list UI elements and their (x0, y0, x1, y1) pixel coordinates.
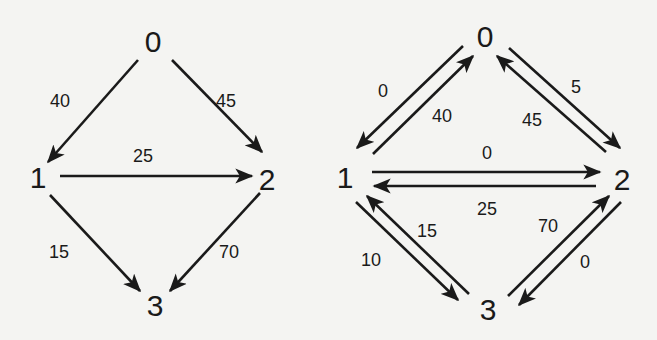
node-3: 3 (147, 289, 164, 322)
edge-arrow-2-to-3 (519, 202, 621, 305)
edge-label-2-to-1: 25 (477, 199, 497, 219)
edge-arrow-2-to-0 (497, 56, 606, 152)
node-3: 3 (480, 293, 497, 326)
edge-arrow-1-to-0 (373, 56, 473, 154)
edge-arrow-2-to-3 (170, 193, 260, 291)
edge-label-0-to-1: 40 (50, 91, 70, 111)
edge-label-1-to-3: 10 (361, 250, 381, 270)
edge-label-0-to-2: 5 (571, 77, 581, 97)
residual-network: 04054502510157000123 (337, 20, 631, 326)
edge-label-2-to-0: 45 (522, 110, 542, 130)
edge-label-2-to-3: 0 (580, 252, 590, 272)
edge-arrow-3-to-1 (367, 196, 469, 294)
edge-label-1-to-3: 15 (49, 242, 69, 262)
edge-label-0-to-1: 0 (378, 81, 388, 101)
node-2: 2 (259, 163, 276, 196)
edge-label-3-to-2: 70 (538, 216, 558, 236)
edge-label-1-to-2: 25 (133, 146, 153, 166)
flow-network-diagrams: 4045251570012304054502510157000123 (0, 0, 657, 340)
edge-arrow-0-to-2 (509, 48, 620, 148)
edge-arrow-3-to-2 (508, 196, 609, 296)
node-2: 2 (614, 163, 631, 196)
flow-network: 40452515700123 (30, 25, 276, 322)
edge-label-3-to-1: 15 (417, 221, 437, 241)
edge-label-2-to-3: 70 (219, 242, 239, 262)
edge-label-0-to-2: 45 (216, 91, 236, 111)
node-0: 0 (145, 25, 162, 58)
edge-label-1-to-2: 0 (482, 143, 492, 163)
node-0: 0 (477, 20, 494, 53)
node-1: 1 (337, 161, 354, 194)
node-1: 1 (30, 161, 47, 194)
edge-arrow-0-to-1 (48, 60, 138, 162)
edge-arrow-0-to-1 (357, 46, 463, 148)
edge-label-1-to-0: 40 (432, 106, 452, 126)
